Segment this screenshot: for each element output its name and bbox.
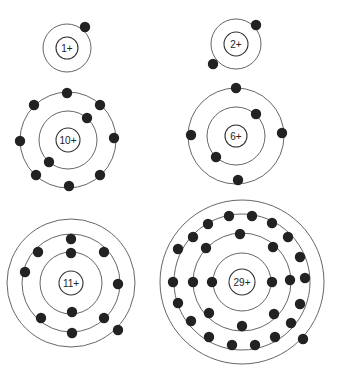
bohr-diagram-canvas: 1+2+10+6+11+29+ 1+ 2+ 10+ 6+ 11+ 29+ [0,0,337,379]
electron [113,279,123,289]
electron [251,109,261,119]
nucleus-charge-label: 1+ [61,43,73,54]
electron [113,325,123,335]
nucleus-charge-label: 10+ [60,135,77,146]
atom-neon: 10+ [15,88,119,191]
electron [186,130,196,140]
electron [64,181,74,191]
electron [80,22,90,32]
electron [224,211,234,221]
electron [204,332,214,342]
electron [235,229,245,239]
electron [99,247,109,257]
electron [201,243,211,253]
electron [247,211,257,221]
atom-diagrams: 1+2+10+6+11+29+ [0,0,337,379]
electron [231,83,241,93]
electron [285,275,295,285]
electron [188,277,198,287]
electron [270,332,280,342]
electron [186,316,196,326]
atom-helium: 2+ [208,19,261,69]
electron [283,232,293,242]
electron [82,113,92,123]
atom-hydrogen: 1+ [43,22,91,72]
electron [67,307,77,317]
atom-carbon: 6+ [186,83,287,185]
atom-sodium: 11+ [7,219,135,347]
electron [295,299,305,309]
electron [44,157,54,167]
electron [286,318,296,328]
electron [188,232,198,242]
electron [31,170,41,180]
electron [207,277,217,287]
electron [99,313,109,323]
electron [269,309,279,319]
electron [168,277,178,287]
atom-copper: 29+ [160,200,324,364]
electron [67,328,77,338]
electron [95,100,105,110]
nucleus-charge-label: 6+ [230,131,242,142]
nucleus-charge-label: 11+ [63,278,79,289]
electron [29,100,39,110]
electron [267,277,277,287]
electron [203,219,213,229]
electron [62,88,72,98]
electron [298,334,308,344]
electron [268,242,278,252]
electron [173,244,183,254]
electron [66,234,76,244]
nucleus-charge-label: 2+ [230,39,242,50]
electron [237,321,247,331]
electron [173,298,183,308]
electron [233,175,243,185]
electron [20,267,30,277]
electron [109,133,119,143]
electron [251,20,261,30]
electron [295,252,305,262]
electron [208,59,218,69]
electron [300,273,310,283]
electron [15,136,25,146]
nucleus-charge-label: 29+ [234,277,251,288]
electron [36,313,46,323]
electron [267,218,277,228]
electron [227,340,237,350]
electron [277,128,287,138]
electron [204,308,214,318]
electron [33,247,43,257]
electron [95,170,105,180]
electron [66,248,76,258]
electron [250,340,260,350]
electron [211,152,221,162]
